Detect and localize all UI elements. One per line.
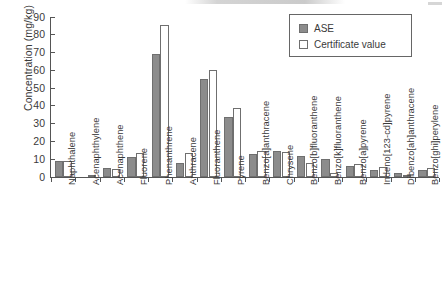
y-axis-tick-label: 60 [19, 65, 45, 76]
bar-ase [394, 173, 402, 177]
bar-ase [249, 154, 257, 177]
x-axis-category-label: Chrysene [285, 145, 295, 185]
x-axis-category-label: Acenaphthylene [91, 118, 101, 185]
y-axis-tick-label: 0 [19, 172, 45, 183]
legend-swatch-certificate-value [299, 40, 308, 49]
bar-ase [176, 163, 184, 177]
y-axis-tick-label: 40 [19, 100, 45, 111]
y-axis-tick-label: 50 [19, 83, 45, 94]
bar-ase [55, 161, 63, 177]
legend-label-ase: ASE [314, 23, 334, 34]
bar-ase [418, 170, 426, 177]
bar-ase [103, 168, 111, 177]
x-axis-category-label: Benzo[a]pyrene [358, 119, 368, 185]
legend-entry-ase: ASE [299, 20, 411, 36]
bar-ase [127, 157, 135, 177]
bar-ase [321, 159, 329, 177]
bar-group [221, 17, 245, 177]
x-axis-category-label: Benzo[b]fluoranthene [309, 96, 319, 185]
chart-legend: ASE Certificate value [289, 14, 412, 57]
y-axis-tick-label: 20 [19, 136, 45, 147]
x-axis-category-label: Acenaphthene [115, 124, 125, 185]
y-axis-tick-label: 70 [19, 47, 45, 58]
x-axis-category-label: Naphthalene [67, 132, 77, 185]
x-axis-category-label: Indeno[123-cd]pyrene [382, 94, 392, 185]
x-axis-category-label: Fluorene [139, 148, 149, 185]
bar-ase [370, 170, 378, 177]
bar-ase [200, 79, 208, 177]
legend-swatch-ase [299, 24, 308, 33]
x-axis-tick [51, 178, 52, 182]
y-axis-tick-label: 90 [19, 12, 45, 23]
legend-entry-certificate-value: Certificate value [299, 36, 411, 52]
bar-ase [224, 117, 232, 177]
x-axis-category-label: Anthracene [188, 137, 198, 185]
legend-label-certificate-value: Certificate value [314, 39, 386, 50]
x-axis-category-label: Phenanthrene [164, 126, 174, 185]
x-axis-category-label: Benzo[a]anthracene [261, 101, 271, 185]
bar-ase [346, 166, 354, 177]
x-axis-category-label: Fluoranthene [212, 130, 222, 185]
x-axis-category-label: Benzo[ghi]perylene [430, 105, 440, 186]
x-axis-category-label: Dibenzo[ah]anthracene [406, 88, 416, 185]
y-axis-tick-label: 30 [19, 118, 45, 129]
x-axis-category-label: Pyrene [236, 155, 246, 185]
bar-ase [273, 151, 281, 177]
bar-ase [297, 156, 305, 177]
bar-ase [152, 54, 160, 177]
x-axis-category-label: Benzo[k]fluoranthene [333, 96, 343, 185]
y-axis-tick-label: 10 [19, 154, 45, 165]
y-axis-tick-label: 80 [19, 29, 45, 40]
bar-chart-figure: Concentration (mg/kg) 010203040506070809… [0, 0, 445, 288]
